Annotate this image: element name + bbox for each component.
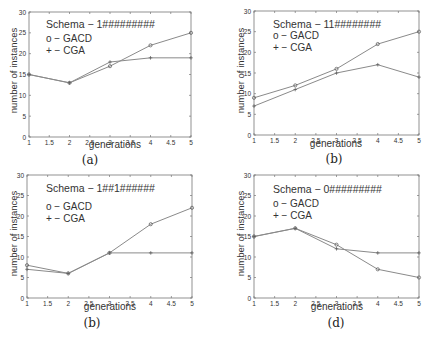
- y-axis-label: number of instances: [8, 16, 19, 126]
- panel-caption: (d): [316, 316, 356, 330]
- y-tick-label: 0: [20, 295, 24, 302]
- series-line-cga: [254, 65, 419, 106]
- x-tick-label: 1: [27, 139, 31, 146]
- legend-gacd: o − GACD: [46, 33, 155, 45]
- schema-label: Schema − 1##1######: [46, 182, 155, 194]
- chart-panel-b-top: 11.522.533.544.55051015202530 Schema − 1…: [215, 0, 430, 171]
- legend-gacd: o − GACD: [46, 201, 155, 213]
- y-tick-label: 10: [19, 92, 27, 99]
- y-tick-label: 20: [19, 50, 27, 57]
- x-tick-label: 1: [252, 300, 256, 307]
- y-tick-label: 5: [20, 274, 24, 281]
- x-tick-label: 1.5: [270, 137, 279, 144]
- y-tick-label: 5: [22, 113, 26, 120]
- x-tick-label: 4.5: [166, 139, 175, 146]
- panel-caption: (b): [72, 316, 112, 330]
- y-tick-label: 30: [244, 172, 252, 179]
- x-tick-label: 1: [252, 137, 256, 144]
- plus-marker: [335, 247, 339, 251]
- schema-label: Schema − 1#########: [46, 18, 155, 30]
- x-tick-label: 1.5: [45, 139, 54, 146]
- y-tick-label: 5: [247, 111, 251, 118]
- y-tick-label: 25: [19, 29, 27, 36]
- plus-marker: [335, 71, 339, 75]
- x-tick-label: 2: [68, 139, 72, 146]
- schema-label: Schema − 11########: [273, 18, 381, 30]
- chart-panel-d: 11.522.533.544.55051015202530 Schema − 0…: [215, 171, 430, 342]
- x-tick-label: 1: [25, 300, 29, 307]
- plus-marker: [108, 60, 112, 64]
- plus-marker: [293, 88, 297, 92]
- plus-marker: [417, 75, 421, 79]
- panel-caption: (a): [70, 153, 110, 167]
- plus-marker: [376, 63, 380, 67]
- plus-marker: [252, 104, 256, 108]
- y-axis-label: number of instances: [235, 179, 246, 289]
- y-tick-label: 5: [247, 274, 251, 281]
- x-axis-label: generations: [297, 301, 377, 312]
- chart-panel-a: 11.522.533.544.55051015202530 Schema − 1…: [0, 0, 215, 171]
- y-tick-label: 0: [247, 132, 251, 139]
- x-tick-label: 1.5: [43, 300, 52, 307]
- plus-marker: [417, 251, 421, 255]
- legend: Schema − 0######### o − GACD + − CGA: [273, 183, 382, 222]
- plus-marker: [189, 56, 193, 60]
- legend-cga: + − CGA: [46, 45, 155, 57]
- y-tick-label: 15: [19, 71, 27, 78]
- legend-gacd: o − GACD: [273, 30, 381, 42]
- x-tick-label: 5: [190, 300, 194, 307]
- panel-caption: (b): [314, 152, 354, 166]
- x-axis-label: generations: [70, 301, 150, 312]
- legend: Schema − 1######### o − GACD + − CGA: [46, 18, 155, 57]
- y-tick-label: 0: [22, 134, 26, 141]
- legend-cga: + − CGA: [46, 213, 155, 225]
- y-tick-label: 30: [19, 9, 27, 16]
- x-axis-label: generations: [75, 139, 155, 150]
- x-tick-label: 5: [417, 137, 421, 144]
- legend-cga: + − CGA: [273, 210, 382, 222]
- plus-marker: [376, 251, 380, 255]
- plus-marker: [149, 251, 153, 255]
- y-tick-label: 30: [244, 8, 252, 15]
- legend-cga: + − CGA: [273, 42, 381, 54]
- x-tick-label: 4: [376, 137, 380, 144]
- x-tick-label: 5: [417, 300, 421, 307]
- plus-marker: [190, 251, 194, 255]
- x-axis-label: generations: [296, 138, 376, 149]
- plus-marker: [25, 268, 29, 272]
- x-tick-label: 4.5: [167, 300, 176, 307]
- y-axis-label: number of instances: [8, 179, 19, 289]
- x-tick-label: 1.5: [270, 300, 279, 307]
- legend: Schema − 1##1###### o − GACD + − CGA: [46, 182, 155, 225]
- x-tick-label: 4.5: [394, 300, 403, 307]
- x-tick-label: 4.5: [394, 137, 403, 144]
- legend-gacd: o − GACD: [273, 198, 382, 210]
- y-axis-label: number of instances: [235, 16, 246, 126]
- y-tick-label: 0: [247, 295, 251, 302]
- schema-label: Schema − 0#########: [273, 183, 382, 195]
- chart-panel-b-bottom: 11.522.533.544.55051015202530 Schema − 1…: [0, 171, 215, 342]
- x-tick-label: 5: [189, 139, 193, 146]
- legend: Schema − 11######## o − GACD + − CGA: [273, 18, 381, 54]
- y-tick-label: 30: [17, 172, 25, 179]
